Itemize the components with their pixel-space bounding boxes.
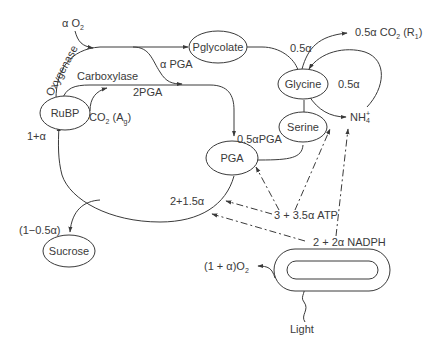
half-alpha-co2-r1-label: 0.5α CO2 (R1) [355,26,422,40]
serine-label: Serine [287,121,319,133]
alpha-o2-input-arrow [75,31,93,48]
atp-to-pga-arrow [256,167,279,210]
atp-label: 3 + 3.5α ATP [274,209,338,221]
two-pga-label: 2PGA [133,86,163,98]
pga-to-rubp-cycle-edge [58,126,234,222]
nadph-label: 2 + 2α NADPH [313,236,386,248]
two-plus-1-5-alpha-label: 2+1.5α [170,195,205,207]
light-label: Light [290,323,314,335]
alpha-o2-label: α O2 [62,17,84,31]
oxygenase-label: Oxygenase [43,43,80,98]
atp-to-cycle-arrow [226,201,272,214]
half-alpha-recycle-label: 0.5α [338,78,360,90]
sucrose-label: Sucrose [49,245,89,257]
co2-input-arrow [90,88,107,111]
o2-output-label: (1 + α)O2 [204,260,249,274]
glycine-label: Glycine [285,78,322,90]
serine-to-pga-edge [253,145,303,160]
carboxylase-label: Carboxylase [77,70,138,82]
rubp-label: RuBP [51,107,80,119]
photorespiration-diagram: RuBP Pglycolate Glycine Serine PGA Sucro… [0,0,435,349]
pga-label: PGA [220,152,244,164]
half-alpha-glycine-label: 0.5α [290,42,312,54]
co2-ag-label: CO2 (Ag) [89,111,131,126]
chloroplast-thylakoid [287,261,378,279]
sucrose-branch-edge [70,200,100,232]
half-alpha-pga-label: 0.5αPGA [237,133,283,145]
one-minus-half-alpha-label: (1−0.5α) [19,224,61,236]
nh4-label: NH+4 [350,110,370,124]
o2-output-arrow [258,266,275,278]
one-plus-alpha-label: 1+α [27,130,47,142]
pglycolate-label: Pglycolate [193,41,244,53]
alpha-pga-label: α PGA [160,58,193,70]
